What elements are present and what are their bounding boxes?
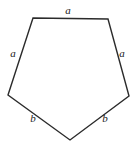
pentagon-outline — [8, 18, 129, 140]
side-label-upper-left: a — [10, 48, 16, 59]
side-label-lower-left: b — [30, 113, 36, 124]
pentagon-figure: a a a b b — [0, 0, 137, 147]
side-label-upper-right: a — [119, 48, 125, 59]
side-label-lower-right: b — [102, 113, 108, 124]
pentagon-shape — [0, 0, 137, 147]
side-label-top: a — [65, 5, 71, 16]
